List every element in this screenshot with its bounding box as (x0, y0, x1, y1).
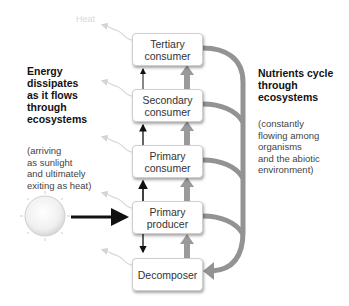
box-label: Primary (144, 150, 190, 162)
energy-title-line: as it flows (27, 89, 87, 101)
nutrients-subtitle-line: and the abiotic (258, 153, 320, 165)
box-label: consumer (144, 50, 190, 62)
box-label: consumer (142, 106, 192, 118)
energy-title-line: ecosystems (27, 113, 87, 125)
energy-subtitle-line: exiting as heat) (27, 180, 91, 192)
energy-title-line: dissipates (27, 77, 87, 89)
nutrients-title-line: Nutrients cycle (258, 67, 333, 79)
energy-subtitle-line: and ultimately (27, 168, 91, 180)
heat-arrows (103, 25, 132, 265)
nutrients-subtitle-line: environment) (258, 164, 320, 176)
box-decomposer: Decomposer (132, 258, 203, 291)
nutrient-cycle-arrow (203, 48, 243, 271)
box-label: consumer (144, 162, 190, 174)
box-label: Decomposer (138, 269, 198, 281)
sun-icon (20, 191, 70, 241)
nutrients-subtitle-line: flowing among (258, 130, 320, 142)
box-label: producer (147, 218, 188, 230)
nutrients-title: Nutrients cycle through ecosystems (258, 67, 333, 103)
nutrients-title-line: through (258, 79, 333, 91)
box-secondary-consumer: Secondary consumer (132, 89, 203, 122)
nutrients-subtitle: (constantly flowing among organisms and … (258, 118, 320, 176)
nutrients-title-line: ecosystems (258, 91, 333, 103)
heat-label: Heat (76, 14, 95, 24)
box-label: Secondary (142, 94, 192, 106)
box-label: Tertiary (144, 38, 190, 50)
nutrients-subtitle-line: (constantly (258, 118, 320, 130)
energy-title-line: Energy (27, 65, 87, 77)
nutrients-subtitle-line: organisms (258, 141, 320, 153)
box-label: Primary (147, 206, 188, 218)
box-primary-consumer: Primary consumer (132, 145, 203, 178)
energy-subtitle-line: (arriving (27, 145, 91, 157)
energy-title-line: through (27, 101, 87, 113)
box-tertiary-consumer: Tertiary consumer (132, 33, 203, 66)
energy-subtitle: (arriving as sunlight and ultimately exi… (27, 145, 91, 191)
energy-title: Energy dissipates as it flows through ec… (27, 65, 87, 125)
energy-subtitle-line: as sunlight (27, 157, 91, 169)
box-primary-producer: Primary producer (132, 201, 203, 234)
